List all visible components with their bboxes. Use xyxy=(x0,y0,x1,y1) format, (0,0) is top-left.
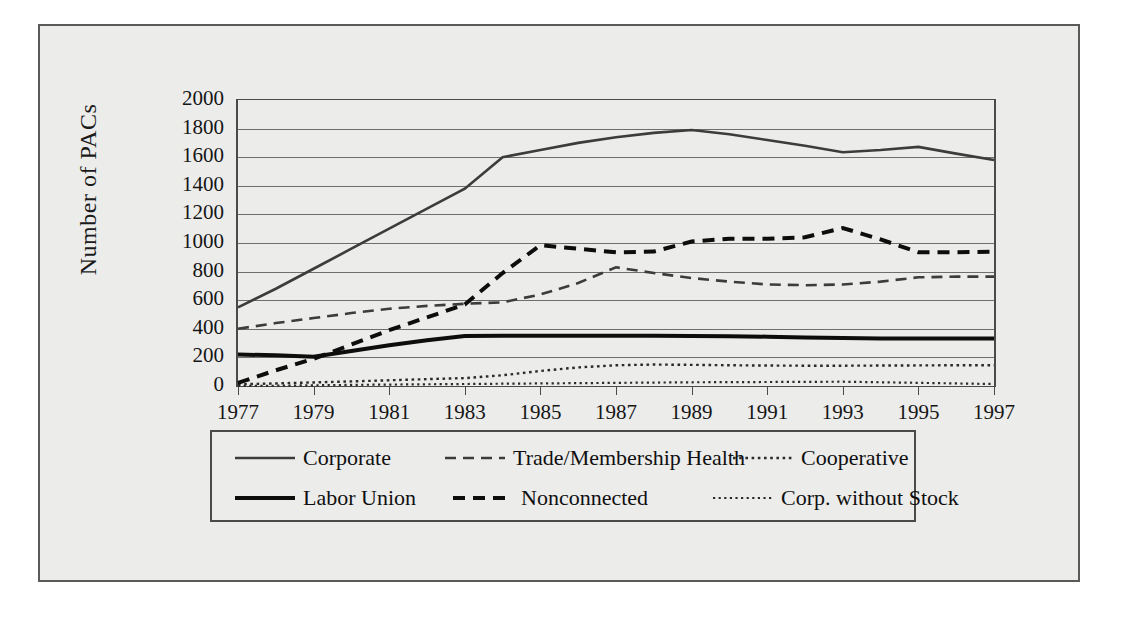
legend-item[interactable]: Trade/Membership Health xyxy=(444,445,745,471)
series-line-labor-union xyxy=(238,336,994,357)
x-axis-tick-label: 1985 xyxy=(502,400,578,425)
figure-frame: Number of PACs 0200400600800100012001400… xyxy=(38,24,1080,582)
legend-swatch-icon xyxy=(732,451,794,465)
x-axis-tick xyxy=(465,386,466,395)
x-axis-tick xyxy=(994,386,995,395)
y-axis-tick-label: 800 xyxy=(114,258,224,283)
chart-area: Number of PACs 0200400600800100012001400… xyxy=(40,26,1082,466)
legend-swatch-icon xyxy=(234,451,296,465)
plot-area: 0200400600800100012001400160018002000 19… xyxy=(236,99,996,387)
y-axis-tick-label: 2000 xyxy=(114,86,224,111)
legend-row: CorporateTrade/Membership HealthCooperat… xyxy=(212,438,914,478)
y-axis-tick-label: 1200 xyxy=(114,200,224,225)
legend-label: Trade/Membership Health xyxy=(513,445,745,471)
x-axis-tick-label: 1995 xyxy=(880,400,956,425)
y-axis-tick-label: 1800 xyxy=(114,115,224,140)
x-axis-tick xyxy=(238,386,239,395)
y-axis-title: Number of PACs xyxy=(75,90,102,290)
x-axis-tick-label: 1977 xyxy=(200,400,276,425)
legend-swatch-icon xyxy=(712,491,774,505)
y-axis-tick-label: 0 xyxy=(114,372,224,397)
y-axis-tick-label: 1400 xyxy=(114,172,224,197)
legend-item[interactable]: Labor Union xyxy=(234,485,416,511)
figure-canvas: Number of PACs 0200400600800100012001400… xyxy=(0,0,1128,634)
x-axis-tick-label: 1983 xyxy=(427,400,503,425)
x-axis-tick xyxy=(540,386,541,395)
y-axis-tick-label: 200 xyxy=(114,343,224,368)
x-axis-tick xyxy=(767,386,768,395)
legend-item[interactable]: Corporate xyxy=(234,445,391,471)
x-axis-tick xyxy=(918,386,919,395)
y-axis-tick-label: 600 xyxy=(114,286,224,311)
legend-label: Cooperative xyxy=(801,445,909,471)
data-series-group xyxy=(238,100,994,386)
x-axis-tick xyxy=(314,386,315,395)
x-axis-tick-label: 1991 xyxy=(729,400,805,425)
legend-label: Labor Union xyxy=(303,485,416,511)
y-axis-tick-label: 400 xyxy=(114,315,224,340)
legend-item[interactable]: Corp. without Stock xyxy=(712,485,959,511)
legend-item[interactable]: Nonconnected xyxy=(452,485,648,511)
series-line-nonconnected xyxy=(238,228,994,383)
legend-swatch-icon xyxy=(452,491,514,505)
legend-label: Corporate xyxy=(303,445,391,471)
x-axis-tick-label: 1981 xyxy=(351,400,427,425)
x-axis-tick xyxy=(389,386,390,395)
legend-item[interactable]: Cooperative xyxy=(732,445,909,471)
x-axis-tick-label: 1993 xyxy=(805,400,881,425)
x-axis-tick-label: 1979 xyxy=(276,400,352,425)
x-axis-tick-label: 1997 xyxy=(956,400,1032,425)
y-axis-tick-label: 1600 xyxy=(114,143,224,168)
x-axis-tick xyxy=(843,386,844,395)
x-axis-tick xyxy=(692,386,693,395)
x-axis-tick-label: 1987 xyxy=(578,400,654,425)
series-line-cooperative xyxy=(238,365,994,385)
legend-swatch-icon xyxy=(444,451,506,465)
chart-legend: CorporateTrade/Membership HealthCooperat… xyxy=(210,430,916,522)
x-axis-tick-label: 1989 xyxy=(654,400,730,425)
legend-row: Labor UnionNonconnectedCorp. without Sto… xyxy=(212,478,914,518)
y-axis-tick-label: 1000 xyxy=(114,229,224,254)
series-line-trade-membership-health xyxy=(238,267,994,328)
legend-swatch-icon xyxy=(234,491,296,505)
x-axis-tick xyxy=(616,386,617,395)
legend-label: Nonconnected xyxy=(521,485,648,511)
legend-label: Corp. without Stock xyxy=(781,485,959,511)
